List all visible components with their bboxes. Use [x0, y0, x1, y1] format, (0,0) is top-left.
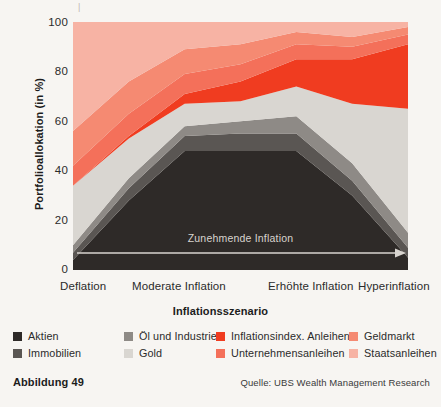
legend-swatch-icon — [216, 349, 225, 358]
legend-item-immobilien: Immobilien — [13, 347, 81, 359]
y-tick-60: 60 — [32, 116, 68, 126]
x-tick-moderate-inflation: Moderate Inflation — [132, 280, 226, 292]
x-axis-label: Inflationsszenario — [0, 305, 441, 317]
legend-item-inflationsindex-anleihen: Inflationsindex. Anleihen — [216, 330, 350, 342]
x-tick-hyperinflation: Hyperinflation — [358, 280, 430, 292]
legend-label: Öl und Industrie — [139, 330, 217, 342]
legend-label: Staatsanleihen — [364, 347, 437, 359]
legend-swatch-icon — [124, 349, 133, 358]
figure-caption: Abbildung 49 — [13, 376, 84, 388]
legend-swatch-icon — [216, 332, 225, 341]
legend-row-1: Aktien Öl und Industrie Inflationsindex.… — [13, 330, 431, 346]
legend-swatch-icon — [124, 332, 133, 341]
legend-label: Gold — [139, 347, 162, 359]
legend-item-staatsanleihen: Staatsanleihen — [349, 347, 437, 359]
y-tick-40: 40 — [32, 165, 68, 175]
x-tick-deflation: Deflation — [60, 280, 106, 292]
x-axis-ticks: Deflation Moderate Inflation Erhöhte Inf… — [0, 280, 441, 296]
legend-label: Inflationsindex. Anleihen — [231, 330, 350, 342]
y-axis-ticks: 100 80 60 40 20 0 — [28, 22, 68, 270]
legend-swatch-icon — [349, 349, 358, 358]
y-tick-100: 100 — [32, 17, 68, 27]
legend-item-geldmarkt: Geldmarkt — [349, 330, 415, 342]
legend-item-aktien: Aktien — [13, 330, 59, 342]
legend-label: Geldmarkt — [364, 330, 415, 342]
legend-swatch-icon — [13, 349, 22, 358]
y-tick-0: 0 — [32, 264, 68, 274]
legend-label: Aktien — [28, 330, 59, 342]
chart-plot-area: Zunehmende Inflation — [73, 22, 408, 270]
figure-source: Quelle: UBS Wealth Management Research — [241, 377, 431, 388]
top-margin-mark: | — [78, 2, 94, 10]
legend-label: Immobilien — [28, 347, 81, 359]
legend-swatch-icon — [13, 332, 22, 341]
y-tick-20: 20 — [32, 215, 68, 225]
legend-label: Unternehmensanleihen — [231, 347, 345, 359]
y-tick-80: 80 — [32, 66, 68, 76]
legend-item-unternehmensanleihen: Unternehmensanleihen — [216, 347, 345, 359]
legend-item-gold: Gold — [124, 347, 162, 359]
legend-swatch-icon — [349, 332, 358, 341]
x-tick-erhoehte-inflation: Erhöhte Inflation — [268, 280, 353, 292]
chart-legend: Aktien Öl und Industrie Inflationsindex.… — [13, 330, 431, 366]
legend-item-oel-und-industrie: Öl und Industrie — [124, 330, 217, 342]
legend-row-2: Immobilien Gold Unternehmensanleihen Sta… — [13, 347, 431, 363]
stacked-area-chart — [73, 22, 408, 270]
figure-container: | Portfolioallokation (in %) 100 80 60 4… — [0, 0, 441, 407]
